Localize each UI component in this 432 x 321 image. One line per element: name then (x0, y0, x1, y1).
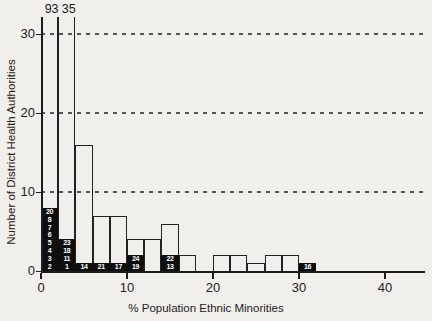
x-axis-line (41, 271, 425, 273)
black-segment-8-10: 17 (110, 263, 127, 271)
district-number-label: 5 (41, 239, 58, 247)
district-number-label: 4 (41, 247, 58, 255)
x-tick-40 (384, 273, 385, 279)
district-number-label: 11 (58, 255, 75, 263)
plot-area: 2087654329323181113514211724192213160102… (0, 0, 432, 321)
histogram-figure: 2087654329323181113514211724192213160102… (0, 0, 432, 321)
y-axis-title: Number of District Health Authorities (5, 12, 17, 292)
black-segment-2-4: 2318111 (58, 239, 75, 271)
x-tick-label-20: 20 (198, 280, 228, 295)
district-number-label: 3 (41, 255, 58, 263)
district-number-label: 24 (127, 255, 144, 263)
x-axis-title: % Population Ethnic Minorities (0, 302, 412, 314)
histogram-bar-16-18 (179, 255, 196, 271)
black-segment-10-12: 2419 (127, 255, 144, 271)
black-segment-4-6: 14 (75, 263, 92, 271)
district-number-label: 18 (58, 247, 75, 255)
y-tick-20 (36, 113, 41, 114)
district-number-label: 23 (58, 239, 75, 247)
district-number-label: 6 (41, 231, 58, 239)
district-number-label: 16 (299, 263, 316, 271)
district-number-label: 2 (41, 263, 58, 271)
histogram-bar-28-30 (282, 255, 299, 271)
district-number-label: 19 (127, 263, 144, 271)
district-number-label: 1 (58, 263, 75, 271)
histogram-bar-22-24 (230, 255, 247, 271)
x-tick-label-40: 40 (370, 280, 400, 295)
histogram-bar-12-14 (144, 239, 161, 271)
histogram-bar-24-26 (247, 263, 264, 271)
histogram-bar-26-28 (265, 255, 282, 271)
district-number-label: 7 (41, 224, 58, 232)
overflow-count-label: 35 (57, 2, 81, 16)
district-number-label: 22 (161, 255, 178, 263)
district-number-label: 21 (93, 263, 110, 271)
x-tick-20 (212, 273, 213, 279)
x-tick-label-10: 10 (112, 280, 142, 295)
y-tick-10 (36, 192, 41, 193)
x-tick-30 (298, 273, 299, 279)
black-segment-0-2: 208765432 (41, 208, 58, 271)
black-segment-6-8: 21 (93, 263, 110, 271)
histogram-bar-20-22 (213, 255, 230, 271)
y-axis-line (41, 17, 43, 273)
gridline-20 (41, 112, 428, 114)
gridline-30 (41, 33, 428, 35)
district-number-label: 17 (110, 263, 127, 271)
x-tick-0 (40, 273, 41, 279)
black-segment-14-16: 2213 (161, 255, 178, 271)
x-tick-label-0: 0 (26, 280, 56, 295)
x-tick-label-30: 30 (284, 280, 314, 295)
histogram-bar-2-4 (58, 17, 75, 271)
district-number-label: 8 (41, 216, 58, 224)
district-number-label: 14 (75, 263, 92, 271)
district-number-label: 20 (41, 208, 58, 216)
gridline-10 (41, 191, 428, 193)
district-number-label: 13 (161, 263, 178, 271)
black-segment-30-32: 16 (299, 263, 316, 271)
y-tick-30 (36, 34, 41, 35)
x-tick-10 (126, 273, 127, 279)
histogram-bar-4-6 (75, 145, 92, 271)
